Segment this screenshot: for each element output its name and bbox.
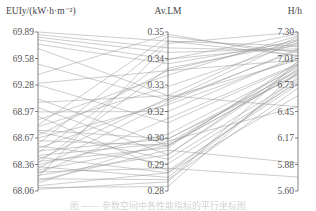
- tick-label-av-lm-6: 0.28: [147, 186, 164, 196]
- tick-label-av-lm-4: 0.30: [147, 133, 164, 143]
- tick-label-h-h-0: 7.30: [277, 27, 294, 37]
- axis-title-h-h: H/h: [288, 6, 303, 16]
- tick-label-euiy-0: 69.89: [13, 27, 35, 37]
- tick-label-h-h-3: 6.45: [277, 107, 294, 117]
- parallel-coordinates-chart: 69.8969.5869.2868.9768.6768.3668.060.350…: [0, 0, 316, 211]
- axis-title-av-lm: Av.LM: [155, 6, 182, 16]
- tick-label-euiy-6: 68.06: [13, 186, 35, 196]
- tick-label-h-h-6: 5.60: [277, 186, 294, 196]
- axis-title-euiy: EUIy/(kW·h·m⁻²): [6, 6, 76, 17]
- tick-label-av-lm-5: 0.29: [147, 160, 164, 170]
- tick-label-h-h-2: 6.73: [277, 80, 294, 90]
- tick-label-euiy-3: 68.97: [13, 107, 35, 117]
- tick-label-euiy-5: 68.36: [13, 160, 35, 170]
- tick-label-av-lm-2: 0.33: [147, 80, 164, 90]
- tick-label-av-lm-3: 0.32: [147, 107, 164, 117]
- tick-label-av-lm-0: 0.35: [147, 27, 164, 37]
- tick-label-h-h-1: 7.01: [277, 54, 294, 64]
- tick-label-h-h-5: 5.88: [277, 160, 294, 170]
- tick-label-euiy-1: 69.58: [13, 54, 35, 64]
- figure-caption: 图 —— 参数空间中各性能指标的平行坐标图: [0, 199, 316, 211]
- tick-label-euiy-4: 68.67: [13, 133, 35, 143]
- tick-label-av-lm-1: 0.34: [147, 54, 164, 64]
- tick-label-euiy-2: 69.28: [13, 80, 35, 90]
- tick-label-h-h-4: 6.17: [277, 133, 294, 143]
